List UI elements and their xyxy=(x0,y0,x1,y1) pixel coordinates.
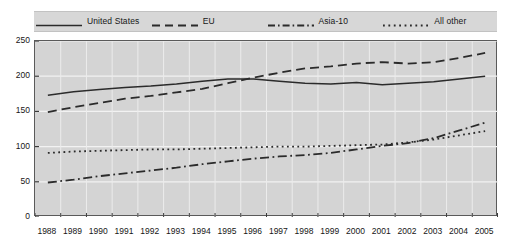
x-axis-tick-label: 1996 xyxy=(243,226,262,236)
legend-line-sample-icon xyxy=(268,16,314,25)
x-axis-tick-label: 1988 xyxy=(37,226,56,236)
y-axis-tick-label: 0 xyxy=(2,211,30,221)
x-axis-tick-label: 2001 xyxy=(372,226,391,236)
chart-canvas xyxy=(35,41,498,217)
x-axis-tick-label: 1992 xyxy=(140,226,159,236)
x-axis-tick-label: 1990 xyxy=(89,226,108,236)
x-axis-tick-label: 1989 xyxy=(63,226,82,236)
x-axis-tick-label: 1993 xyxy=(166,226,185,236)
legend-line-sample-icon xyxy=(36,16,82,25)
legend-line-sample-icon xyxy=(152,16,198,25)
legend-item-all-other[interactable]: All other xyxy=(381,16,497,26)
legend-label: Asia-10 xyxy=(319,16,349,26)
legend-label: EU xyxy=(203,16,215,26)
x-axis-tick-label: 1995 xyxy=(217,226,236,236)
plot-area xyxy=(34,40,497,216)
chart-page: United StatesEUAsia-10All other 05010015… xyxy=(0,0,511,245)
legend-item-eu[interactable]: EU xyxy=(150,16,266,26)
y-axis-labels: 050100150200250 xyxy=(0,0,30,245)
x-axis-tick-label: 1998 xyxy=(295,226,314,236)
y-axis-tick-label: 250 xyxy=(2,35,30,45)
x-axis-tick-label: 2004 xyxy=(449,226,468,236)
x-axis-tick-label: 1994 xyxy=(192,226,211,236)
legend-line-sample-icon xyxy=(383,16,429,25)
legend-label: All other xyxy=(434,16,466,26)
legend-item-asia-10[interactable]: Asia-10 xyxy=(266,16,382,26)
x-axis-tick-label: 1999 xyxy=(320,226,339,236)
legend-label: United States xyxy=(87,16,139,26)
x-axis-tick-label: 2003 xyxy=(423,226,442,236)
x-axis-labels: 1988198919901991199219931994199519961997… xyxy=(34,226,497,240)
y-axis-tick-label: 150 xyxy=(2,105,30,115)
x-axis-tick-label: 2002 xyxy=(398,226,417,236)
x-axis-tick-label: 1997 xyxy=(269,226,288,236)
y-axis-tick-label: 50 xyxy=(2,176,30,186)
x-axis-tick-label: 2000 xyxy=(346,226,365,236)
y-axis-tick-label: 200 xyxy=(2,70,30,80)
y-axis-tick-label: 100 xyxy=(2,141,30,151)
x-axis-tick-label: 1991 xyxy=(115,226,134,236)
legend-item-united-states[interactable]: United States xyxy=(34,16,150,26)
x-axis-tick-label: 2005 xyxy=(475,226,494,236)
chart-legend: United StatesEUAsia-10All other xyxy=(34,11,497,30)
